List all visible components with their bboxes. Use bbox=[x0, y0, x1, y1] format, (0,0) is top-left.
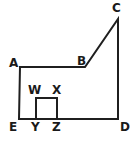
vertex-label-c: C bbox=[112, 2, 121, 14]
figure-canvas bbox=[0, 0, 137, 142]
geometry-figure: A B C D E W X Y Z bbox=[0, 0, 137, 142]
outer-polygon-path bbox=[19, 19, 118, 119]
vertex-label-w: W bbox=[28, 84, 41, 96]
vertex-label-e: E bbox=[9, 121, 17, 133]
vertex-label-x: X bbox=[52, 84, 61, 96]
vertex-label-a: A bbox=[9, 57, 18, 69]
vertex-label-d: D bbox=[120, 121, 130, 133]
inner-rectangle-path bbox=[36, 98, 57, 119]
vertex-label-z: Z bbox=[52, 121, 61, 133]
vertex-label-y: Y bbox=[31, 121, 40, 133]
vertex-label-b: B bbox=[77, 55, 86, 67]
